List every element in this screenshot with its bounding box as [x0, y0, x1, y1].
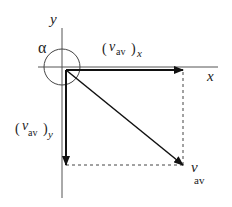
vector-vav-arrow — [66, 70, 183, 165]
angle-alpha-label: α — [38, 39, 47, 56]
svg-text:av: av — [116, 46, 125, 57]
svg-text:(: ( — [15, 121, 20, 137]
vav-label: v av — [191, 159, 205, 186]
svg-text:v: v — [191, 159, 198, 175]
svg-text:y: y — [47, 128, 53, 140]
svg-text:): ) — [131, 41, 136, 57]
svg-text:av: av — [194, 174, 205, 186]
vector-diagram: y x α ( v av ) x ( v av ) y v av — [0, 0, 232, 207]
y-axis-label: y — [48, 11, 57, 27]
svg-text:(: ( — [102, 41, 107, 57]
svg-text:x: x — [136, 47, 142, 59]
svg-text:v: v — [109, 39, 116, 54]
svg-text:av: av — [28, 127, 37, 138]
vy-label: ( v av ) y — [15, 118, 53, 140]
x-axis-label: x — [206, 68, 214, 84]
vx-label: ( v av ) x — [102, 39, 142, 59]
